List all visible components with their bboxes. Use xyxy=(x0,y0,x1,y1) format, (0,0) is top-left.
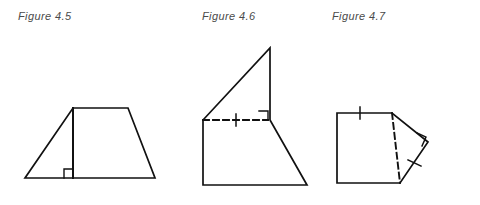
right-angle-mark-icon xyxy=(259,111,268,120)
right-angle-mark-icon xyxy=(64,169,73,178)
figure-panel-4-6: Figure 4.6 xyxy=(170,0,320,205)
pentagon-outline xyxy=(203,48,307,185)
dashed-diagonal-line xyxy=(392,113,400,183)
trapezoid-outline xyxy=(25,108,155,178)
figure-drawing-4-5 xyxy=(0,0,170,205)
figure-drawing-4-7 xyxy=(320,0,480,205)
figure-panel-4-7: Figure 4.7 xyxy=(320,0,480,205)
figure-drawing-4-6 xyxy=(170,0,320,205)
figure-panel-4-5: Figure 4.5 xyxy=(0,0,170,205)
quadrilateral-outline xyxy=(337,113,428,183)
